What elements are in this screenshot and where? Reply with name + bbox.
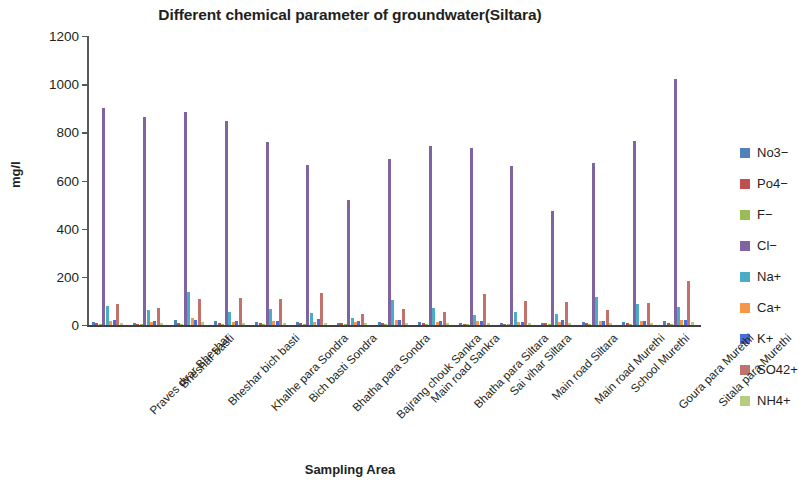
- bar-group: [374, 36, 415, 325]
- chart-root: Different chemical parameter of groundwa…: [0, 0, 811, 489]
- bar-NH4-11: [568, 323, 571, 325]
- bar-Cl-3: [225, 121, 228, 325]
- bar-SO42-5: [320, 293, 323, 325]
- bar-NH4-2: [201, 322, 204, 325]
- legend-item[interactable]: Na+: [740, 261, 810, 292]
- legend-item[interactable]: Ca+: [740, 292, 810, 323]
- y-tick-label: 400: [56, 221, 79, 236]
- bar-SO42-2: [198, 299, 201, 325]
- legend-swatch-icon: [740, 396, 750, 406]
- bar-NH4-8: [446, 323, 449, 325]
- bar-group: [414, 36, 455, 325]
- bar-group: [129, 36, 170, 325]
- legend-label: F−: [757, 207, 773, 222]
- bar-SO42-10: [524, 301, 527, 325]
- y-tick-mark: [82, 325, 88, 326]
- y-tick-label: 200: [56, 269, 79, 284]
- bar-Cl-10: [510, 166, 513, 325]
- x-axis-title: Sampling Area: [0, 462, 700, 477]
- legend-swatch-icon: [740, 210, 750, 220]
- y-tick-label: 800: [56, 125, 79, 140]
- y-tick-label: 1000: [49, 77, 79, 92]
- bar-NH4-6: [364, 323, 367, 325]
- bar-SO42-3: [239, 298, 242, 325]
- plot-area: 020040060080010001200: [88, 36, 700, 325]
- bar-NH4-10: [528, 323, 531, 325]
- bar-SO42-4: [279, 299, 282, 325]
- y-tick-label: 1200: [49, 29, 79, 44]
- bar-SO42-14: [687, 281, 690, 325]
- legend-swatch-icon: [740, 241, 750, 251]
- x-axis-line: [87, 325, 701, 327]
- bar-Cl-13: [633, 141, 636, 325]
- bar-SO42-9: [483, 294, 486, 325]
- bar-group: [251, 36, 292, 325]
- bar-Cl-9: [470, 148, 473, 325]
- bar-Cl-6: [347, 200, 350, 325]
- legend-swatch-icon: [740, 303, 750, 313]
- legend-label: Po4−: [757, 176, 788, 191]
- bar-NH4-7: [405, 323, 408, 325]
- bar-NH4-1: [160, 323, 163, 325]
- bar-NH4-0: [120, 323, 123, 325]
- bar-group: [292, 36, 333, 325]
- bar-group: [618, 36, 659, 325]
- x-tick-label: Bheshar basti: [177, 331, 236, 390]
- bar-group: [455, 36, 496, 325]
- y-tick-label: 600: [56, 173, 79, 188]
- bar-group: [88, 36, 129, 325]
- bar-SO42-11: [565, 302, 568, 325]
- legend-item[interactable]: F−: [740, 199, 810, 230]
- legend-label: No3−: [757, 145, 788, 160]
- legend-label: Ca+: [757, 300, 781, 315]
- bar-group: [210, 36, 251, 325]
- bar-NH4-13: [650, 323, 653, 325]
- legend-item[interactable]: Cl−: [740, 230, 810, 261]
- bar-NH4-5: [324, 323, 327, 325]
- y-axis-title: mg/l: [8, 161, 23, 188]
- legend-swatch-icon: [740, 272, 750, 282]
- legend-swatch-icon: [740, 148, 750, 158]
- legend-item[interactable]: No3−: [740, 137, 810, 168]
- bar-Cl-1: [143, 117, 146, 325]
- chart-title: Different chemical parameter of groundwa…: [0, 6, 700, 24]
- bar-NH4-3: [242, 323, 245, 325]
- legend-label: Cl−: [757, 238, 777, 253]
- bar-Cl-14: [674, 79, 677, 325]
- bar-group: [170, 36, 211, 325]
- bar-Cl-11: [551, 211, 554, 325]
- legend-item[interactable]: NH4+: [740, 385, 810, 416]
- legend-item[interactable]: Po4−: [740, 168, 810, 199]
- bar-NH4-9: [487, 323, 490, 325]
- bar-group: [659, 36, 700, 325]
- legend-swatch-icon: [740, 179, 750, 189]
- bar-group: [578, 36, 619, 325]
- x-tick-label: Bajrang chouk Sankra: [394, 331, 484, 421]
- y-tick-label: 0: [71, 318, 79, 333]
- legend-label: Na+: [757, 269, 781, 284]
- legend-label: NH4+: [757, 393, 791, 408]
- bar-NH4-4: [283, 323, 286, 325]
- bar-NH4-12: [609, 323, 612, 325]
- bar-group: [333, 36, 374, 325]
- bar-group: [496, 36, 537, 325]
- bar-Cl-8: [429, 146, 432, 325]
- bar-group: [537, 36, 578, 325]
- bar-Cl-0: [102, 108, 105, 325]
- bar-NH4-14: [691, 322, 694, 325]
- bar-Cl-5: [306, 165, 309, 325]
- bar-Cl-4: [266, 142, 269, 326]
